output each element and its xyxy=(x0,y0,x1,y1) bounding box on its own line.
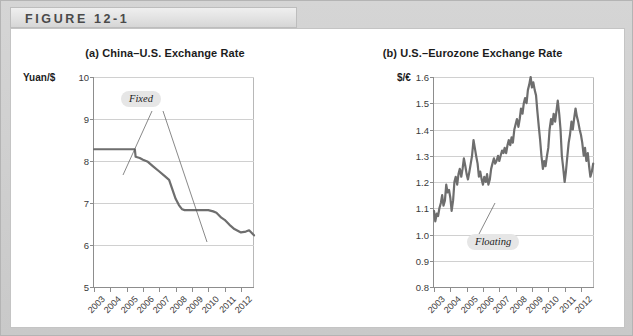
x-tick-mark xyxy=(581,287,582,292)
y-tick-label: 7 xyxy=(84,198,89,209)
x-tick-mark xyxy=(127,287,128,292)
x-tick-label: 2011 xyxy=(217,294,238,315)
figure-header-bar: FIGURE 12-1 xyxy=(10,7,297,28)
y-tick-label: 0.8 xyxy=(416,282,429,293)
x-tick-mark xyxy=(241,287,242,292)
y-tick-label: 1.4 xyxy=(416,124,429,135)
x-tick-mark xyxy=(208,287,209,292)
x-tick-mark xyxy=(225,287,226,292)
y-tick-label: 1.5 xyxy=(416,98,429,109)
x-tick-mark xyxy=(94,287,95,292)
x-tick-label: 2011 xyxy=(557,294,578,315)
chart-china-us-exchange-rate: (a) China–U.S. Exchange Rate Yuan/$ 5678… xyxy=(11,29,319,328)
chart-a-y-axis-unit: Yuan/$ xyxy=(23,72,55,83)
data-series-line xyxy=(94,149,254,235)
x-tick-label: 2004 xyxy=(442,294,463,315)
y-tick-label: 1.1 xyxy=(416,203,429,214)
figure-frame: FIGURE 12-1 (a) China–U.S. Exchange Rate… xyxy=(0,0,633,336)
chart-a-title: (a) China–U.S. Exchange Rate xyxy=(11,47,319,59)
x-tick-mark xyxy=(516,287,517,292)
x-tick-mark xyxy=(532,287,533,292)
y-tick-label: 1.2 xyxy=(416,177,429,188)
x-tick-mark xyxy=(434,287,435,292)
y-tick-label: 8 xyxy=(84,156,89,167)
figure-number-label: FIGURE 12-1 xyxy=(25,12,129,26)
x-tick-mark xyxy=(450,287,451,292)
y-tick-label: 1.3 xyxy=(416,150,429,161)
x-tick-mark xyxy=(467,287,468,292)
y-tick-label: 9 xyxy=(84,114,89,125)
y-tick-label: 5 xyxy=(84,282,89,293)
chart-us-eurozone-exchange-rate: (b) U.S.–Eurozone Exchange Rate $/€ 0.80… xyxy=(319,29,625,328)
x-tick-mark xyxy=(110,287,111,292)
chart-b-title: (b) U.S.–Eurozone Exchange Rate xyxy=(319,47,625,59)
y-tick-label: 10 xyxy=(78,72,89,83)
x-tick-mark xyxy=(159,287,160,292)
x-tick-label: 2004 xyxy=(102,294,123,315)
y-tick-label: 0.9 xyxy=(416,255,429,266)
x-tick-label: 2010 xyxy=(540,294,561,315)
x-tick-label: 2012 xyxy=(233,294,254,315)
x-tick-label: 2007 xyxy=(151,294,172,315)
chart-a-plot-area: 5678910 20032004200520062007200820092010… xyxy=(93,77,254,288)
x-tick-label: 2007 xyxy=(491,294,512,315)
x-tick-label: 2010 xyxy=(200,294,221,315)
x-tick-mark xyxy=(565,287,566,292)
y-tick-label: 6 xyxy=(84,240,89,251)
x-tick-label: 2012 xyxy=(573,294,594,315)
x-tick-mark xyxy=(176,287,177,292)
y-tick-label: 1.6 xyxy=(416,72,429,83)
x-tick-mark xyxy=(483,287,484,292)
figure-content-panel: (a) China–U.S. Exchange Rate Yuan/$ 5678… xyxy=(10,28,625,328)
chart-b-data-line xyxy=(434,77,594,287)
y-tick-label: 1.0 xyxy=(416,229,429,240)
chart-a-data-line xyxy=(94,77,254,287)
data-series-line xyxy=(434,77,593,221)
x-tick-mark xyxy=(499,287,500,292)
x-tick-mark xyxy=(192,287,193,292)
chart-b-annotation-floating: Floating xyxy=(467,234,519,250)
chart-b-plot-area: 0.80.91.01.11.21.31.41.51.6 200320042005… xyxy=(433,77,594,288)
chart-a-annotation-fixed: Fixed xyxy=(121,91,161,107)
x-tick-mark xyxy=(143,287,144,292)
chart-b-y-axis-unit: $/€ xyxy=(397,72,411,83)
x-tick-mark xyxy=(548,287,549,292)
